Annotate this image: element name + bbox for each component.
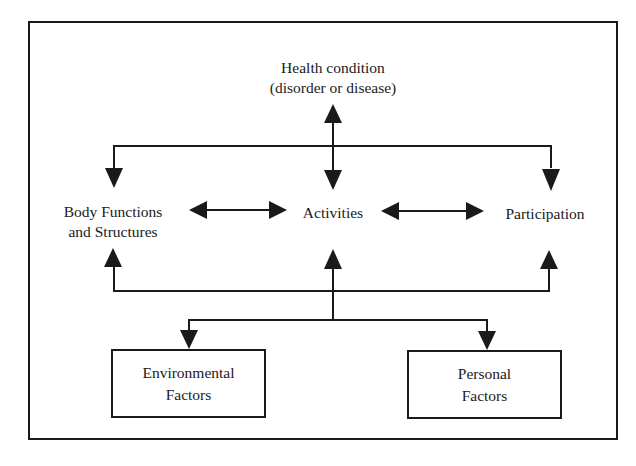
arrowhead-down-icon [180, 330, 198, 349]
arrowhead-up-icon [324, 104, 342, 123]
activities-node: Activities [303, 203, 363, 223]
arrowhead-down-icon [542, 169, 560, 191]
environmental-factors-line2: Factors [142, 384, 234, 406]
arrowhead-right-icon [269, 201, 287, 219]
health-condition-node: Health condition (disorder or disease) [270, 58, 397, 98]
arrowhead-down-icon [478, 331, 496, 350]
health-condition-subtitle: (disorder or disease) [270, 78, 397, 98]
personal-factors-line2: Factors [458, 385, 511, 407]
arrowhead-down-icon [105, 168, 123, 188]
arrowhead-left-icon [381, 202, 399, 220]
arrowhead-up-icon [540, 250, 558, 269]
personal-factors-line1: Personal [458, 363, 511, 385]
environmental-factors-box: Environmental Factors [111, 349, 266, 418]
personal-factors-box: Personal Factors [407, 350, 562, 419]
body-functions-line2: and Structures [64, 222, 163, 242]
environmental-factors-line1: Environmental [142, 362, 234, 384]
participation-label: Participation [505, 204, 584, 224]
bottom-bus-connector [114, 266, 549, 291]
health-condition-title: Health condition [270, 58, 397, 78]
contextual-split-connector [189, 320, 487, 332]
participation-node: Participation [505, 204, 584, 224]
activities-label: Activities [303, 203, 363, 223]
body-functions-node: Body Functions and Structures [64, 202, 163, 242]
arrowhead-up-icon [324, 249, 342, 269]
arrowhead-right-icon [466, 202, 484, 220]
body-functions-line1: Body Functions [64, 202, 163, 222]
arrowhead-left-icon [189, 201, 207, 219]
arrowhead-down-icon [324, 170, 342, 190]
arrowhead-up-icon [104, 248, 122, 267]
